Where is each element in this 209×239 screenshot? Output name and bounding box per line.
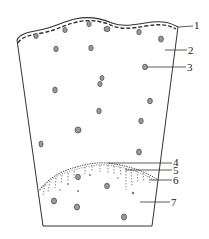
dome-dots [59,174,134,194]
label-1: 1 [194,20,200,31]
dome-streaks [43,165,150,195]
section-outline [17,18,178,226]
cells [34,21,164,220]
tissue-section-diagram [0,0,209,239]
label-6: 6 [173,175,179,186]
label-2: 2 [188,45,194,56]
label-3: 3 [187,62,193,73]
label-7: 7 [171,197,177,208]
dome-region [38,163,158,192]
